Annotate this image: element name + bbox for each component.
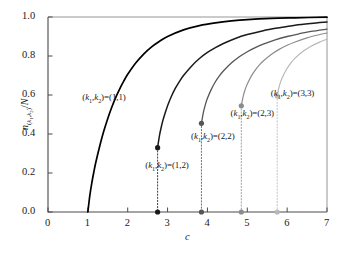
curve-annotation-4: (k1,k2)=(3,3) [271,88,314,100]
onset-dot-(k1,k2)=(2,2) [199,121,204,126]
x-tick-label-6: 6 [284,217,289,228]
baseline-dot-(k1,k2)=(3,3) [275,209,280,214]
curve-annotation-2: (k1,k2)=(2,2) [191,131,234,143]
y-tick-label-0.6: 0.6 [22,88,35,99]
curve-annotation-0: (k1,k2)=(1,1) [82,92,125,104]
x-tick-label-3: 3 [165,217,170,228]
x-tick-label-2: 2 [125,217,130,228]
baseline-dot-(k1,k2)=(2,2) [199,209,204,214]
baseline-dot-(k1,k2)=(2,3) [239,209,244,214]
x-tick-label-0: 0 [45,217,50,228]
y-axis-title-text: n(k1,k2)/N [19,99,30,130]
chart-figure [0,0,346,256]
y-axis-title: n(k1,k2)/N [14,99,34,130]
x-tick-label-7: 7 [324,217,329,228]
curve-annotation-3: (k1,k2)=(2,3) [231,108,274,120]
y-tick-label-0.0: 0.0 [22,205,35,216]
curve-annotation-1: (k1,k2)=(1,2) [145,160,188,172]
x-tick-label-4: 4 [204,217,209,228]
y-tick-label-0.2: 0.2 [22,166,35,177]
baseline-dot-(k1,k2)=(1,2) [155,209,160,214]
x-axis-title: c [185,231,190,242]
figure-background [0,0,346,256]
y-tick-label-0.8: 0.8 [22,49,35,60]
x-tick-label-1: 1 [85,217,90,228]
x-tick-label-5: 5 [244,217,249,228]
y-tick-label-1.0: 1.0 [22,10,35,21]
onset-dot-(k1,k2)=(1,2) [155,145,160,150]
